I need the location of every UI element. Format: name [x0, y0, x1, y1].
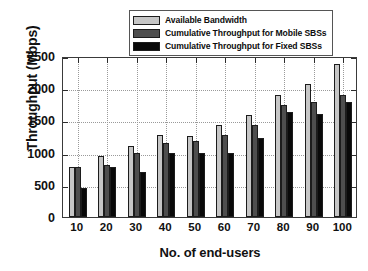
y-axis-tick — [63, 90, 68, 91]
y-axis-tick-right — [351, 90, 356, 91]
x-axis-tick-top — [314, 58, 315, 63]
legend-item: Cumulative Throughput for Mobile SBSs — [133, 27, 327, 39]
bar — [169, 153, 175, 217]
x-axis-tick-top — [343, 58, 344, 63]
legend-swatch — [133, 29, 160, 38]
x-axis-tick-top — [166, 58, 167, 63]
legend-swatch — [133, 42, 160, 51]
y-axis-tick-label: 2500 — [9, 50, 55, 64]
y-axis-tick-label: 2000 — [9, 82, 55, 96]
y-axis-tick-right — [351, 58, 356, 59]
legend-item: Available Bandwidth — [133, 14, 327, 26]
legend-swatch — [133, 16, 160, 25]
x-axis-tick-top — [196, 58, 197, 63]
bar — [81, 188, 87, 217]
x-axis-tick-label: 100 — [325, 221, 359, 233]
bar — [199, 153, 205, 217]
y-axis-tick-label: 0 — [9, 211, 55, 225]
x-axis-tick-top — [284, 58, 285, 63]
x-axis-tick-top — [255, 58, 256, 63]
bar — [287, 112, 293, 217]
bar — [258, 138, 264, 217]
bar — [228, 153, 234, 217]
x-axis-tick-top — [107, 58, 108, 63]
x-axis-title: No. of end-users — [57, 245, 363, 260]
y-axis-tick — [63, 187, 68, 188]
bar — [317, 114, 323, 217]
bar — [140, 172, 146, 217]
bar-chart: Throughput (Mbps) 05001000150020002500 1… — [0, 0, 368, 271]
x-axis-tick-top — [137, 58, 138, 63]
plot-area — [62, 57, 357, 218]
bar — [346, 102, 352, 217]
y-axis-tick — [63, 155, 68, 156]
y-axis-tick-label: 1000 — [9, 147, 55, 161]
y-axis-tick-label: 500 — [9, 179, 55, 193]
y-axis-tick — [63, 122, 68, 123]
legend-label: Cumulative Throughput for Mobile SBSs — [165, 28, 327, 38]
legend-label: Cumulative Throughput for Fixed SBSs — [165, 41, 322, 51]
x-axis-tick-top — [78, 58, 79, 63]
y-axis-tick — [63, 58, 68, 59]
y-axis-tick-label: 1500 — [9, 114, 55, 128]
bar — [110, 167, 116, 217]
legend-label: Available Bandwidth — [165, 15, 247, 25]
legend-item: Cumulative Throughput for Fixed SBSs — [133, 40, 327, 52]
chart-legend: Available BandwidthCumulative Throughput… — [129, 10, 333, 56]
x-axis-tick-top — [225, 58, 226, 63]
